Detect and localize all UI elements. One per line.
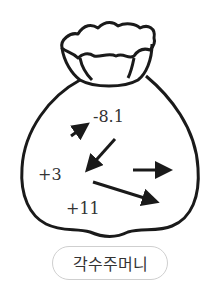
pouch-label: 각수주머니	[52, 246, 168, 280]
number-plus-3: +3	[38, 167, 62, 183]
number-plus-11: +11	[66, 201, 100, 217]
pouch-ruffle	[62, 23, 155, 59]
number-neg-8-1: -8.1	[93, 109, 124, 125]
